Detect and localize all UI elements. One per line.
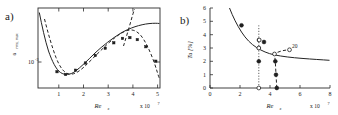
panel-a-square-markers — [56, 36, 157, 75]
panel-b-xlabel: Re — [266, 102, 274, 109]
panel-b-mult-base: x 10 — [310, 103, 320, 109]
panel-a-xtick-4: 4 — [131, 91, 134, 97]
panel-a-mult-exp: 7 — [158, 101, 160, 106]
panel-a-frame — [38, 8, 160, 88]
panel-b-yaxis-title: Tu [%] — [186, 41, 193, 59]
panel-a-ytick-mantissa: 10 — [28, 59, 34, 65]
two-panel-figure: a) — [0, 0, 338, 115]
panel-a-solid-curve — [39, 13, 159, 75]
panel-b-ytick-0: 0 — [203, 85, 206, 91]
panel-a-mult-base: x 10 — [140, 103, 150, 109]
panel-b-x-multiplier: x 10 7 — [310, 101, 330, 110]
panel-a-ytick-label: 10 -3 — [28, 57, 39, 66]
panel-a-xtick-3: 3 — [107, 91, 110, 97]
panel-b-solid-curve — [230, 8, 330, 60]
panel-a-xtick-5: 5 — [156, 91, 159, 97]
panel-a-xlabel: Re — [94, 102, 102, 109]
panel-b-xlabel-sub: x — [279, 106, 282, 111]
panel-b-ytick-1: 1 — [203, 72, 206, 78]
panel-b-xtick-0: 0 — [209, 91, 212, 97]
panel-a-plot: 1 2 3 4 5 10 -3 Re x x 10 7 u r — [0, 0, 170, 115]
panel-a-dashed-curve — [45, 19, 160, 78]
panel-a-x-multiplier: x 10 7 — [140, 101, 160, 110]
panel-b-xtick-4: 4 — [269, 91, 272, 97]
panel-a-xtick-1: 1 — [57, 91, 60, 97]
panel-b-open-markers — [257, 38, 292, 90]
panel-b-mult-exp: 7 — [328, 101, 330, 106]
panel-a-yaxis-title: u rms, max — [11, 33, 20, 55]
panel-b-xaxis-title: Re x — [266, 102, 282, 111]
panel-a: a) — [0, 0, 170, 115]
panel-b-annotation-20: 20 — [292, 43, 298, 49]
panel-b-xtick-6: 6 — [299, 91, 302, 97]
panel-a-ylabel: u — [11, 52, 17, 55]
panel-b-xtick-2: 2 — [239, 91, 242, 97]
panel-b: b) — [170, 0, 338, 115]
panel-a-ylabel-sub: rms, max — [14, 33, 20, 48]
panel-b-ylabel: Tu [%] — [186, 41, 193, 59]
panel-b-ytick-5: 5 — [203, 18, 206, 24]
panel-a-xlabel-sub: x — [107, 106, 110, 111]
panel-a-ytick-exponent: -3 — [35, 57, 39, 62]
panel-a-xticks — [59, 8, 158, 88]
panel-b-ytick-2: 2 — [203, 58, 206, 64]
panel-b-plot: 20 0 1 2 3 4 5 6 0 2 4 6 8 Re x x 10 7 — [170, 0, 338, 115]
panel-b-xtick-8: 8 — [329, 91, 332, 97]
panel-b-ytick-6: 6 — [203, 5, 206, 11]
panel-a-xtick-2: 2 — [82, 91, 85, 97]
panel-b-ytick-3: 3 — [203, 45, 206, 51]
panel-a-xaxis-title: Re x — [94, 102, 110, 111]
panel-b-ytick-4: 4 — [203, 32, 206, 38]
